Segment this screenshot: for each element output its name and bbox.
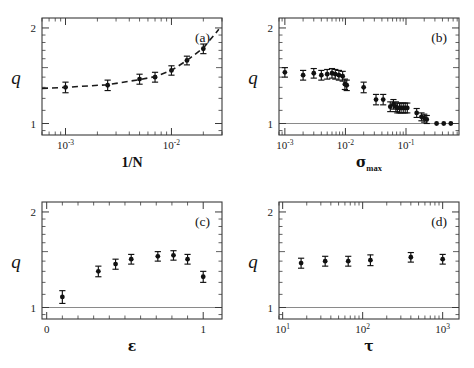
x-tick-label: 103 xyxy=(435,322,450,336)
data-point xyxy=(414,110,419,115)
data-point xyxy=(185,257,190,262)
y-tick-label: 2 xyxy=(31,206,37,218)
y-tick-label: 1 xyxy=(31,118,37,130)
fit-line xyxy=(42,29,219,88)
data-point xyxy=(381,97,386,102)
x-axis-label: 1/N xyxy=(122,155,143,170)
data-point xyxy=(323,259,328,264)
data-point xyxy=(60,294,65,299)
panel-tag: (c) xyxy=(195,214,210,229)
data-point xyxy=(129,257,134,262)
x-tick-label: 10-2 xyxy=(163,138,180,152)
data-point xyxy=(441,121,446,126)
data-point xyxy=(340,74,345,79)
x-tick-label: 0 xyxy=(44,323,50,335)
data-series xyxy=(59,251,206,304)
data-point xyxy=(361,85,366,90)
panel-a: 12q10-310-21/N(a) xyxy=(0,0,237,184)
panel-b: 12q10-310-210-1σmax(b) xyxy=(237,0,474,184)
y-tick-label: 2 xyxy=(31,22,37,34)
panel-b-plot: 12q10-310-210-1σmax(b) xyxy=(237,0,474,184)
data-point xyxy=(405,105,410,110)
panel-c-plot: 12q01ε(c) xyxy=(0,184,237,368)
panel-c: 12q01ε(c) xyxy=(0,184,237,368)
panel-d: 12q101102103τ(d) xyxy=(237,184,474,368)
data-point xyxy=(171,253,176,258)
data-point xyxy=(137,77,142,82)
data-point xyxy=(344,83,349,88)
data-point xyxy=(408,255,413,260)
data-point xyxy=(448,121,453,126)
y-tick-label: 1 xyxy=(31,302,37,314)
data-point xyxy=(325,72,330,77)
x-tick-label: 1 xyxy=(200,323,206,335)
data-point xyxy=(424,117,429,122)
x-tick-label: 10-3 xyxy=(276,138,293,152)
x-axis-label: σmax xyxy=(356,154,383,173)
data-point xyxy=(113,262,118,267)
data-point xyxy=(319,73,324,78)
x-tick-label: 102 xyxy=(355,322,370,336)
y-tick-label: 2 xyxy=(268,22,274,34)
data-point xyxy=(368,258,373,263)
y-tick-label: 1 xyxy=(268,302,274,314)
panel-a-plot: 12q10-310-21/N(a) xyxy=(0,0,237,184)
y-axis-label: q xyxy=(11,251,21,272)
data-point xyxy=(434,121,439,126)
data-point xyxy=(201,274,206,279)
x-tick-label: 10-3 xyxy=(57,138,74,152)
data-point xyxy=(440,257,445,262)
data-point xyxy=(346,259,351,264)
x-tick-label: 101 xyxy=(275,322,290,336)
data-point xyxy=(96,269,101,274)
panel-tag: (a) xyxy=(195,30,210,45)
x-tick-label: 10-1 xyxy=(397,138,414,152)
panel-tag: (b) xyxy=(431,30,447,45)
data-series xyxy=(282,68,453,126)
y-tick-label: 2 xyxy=(268,206,274,218)
y-tick-label: 1 xyxy=(268,118,274,130)
panel-tag: (d) xyxy=(431,214,447,229)
y-axis-label: q xyxy=(248,251,258,272)
y-axis-label: q xyxy=(248,67,258,88)
x-tick-label: 10-2 xyxy=(337,138,354,152)
x-axis-label: τ xyxy=(364,338,373,354)
figure-panel-grid: 12q10-310-21/N(a) 12q10-310-210-1σmax(b)… xyxy=(0,0,474,368)
data-point xyxy=(301,73,306,78)
y-axis-label: q xyxy=(11,67,21,88)
panel-d-plot: 12q101102103τ(d) xyxy=(237,184,474,368)
data-point xyxy=(282,70,287,75)
data-series xyxy=(298,253,446,269)
data-point xyxy=(155,254,160,259)
x-axis-label: ε xyxy=(128,338,137,354)
data-point xyxy=(374,97,379,102)
data-point xyxy=(299,261,304,266)
data-point xyxy=(311,71,316,76)
